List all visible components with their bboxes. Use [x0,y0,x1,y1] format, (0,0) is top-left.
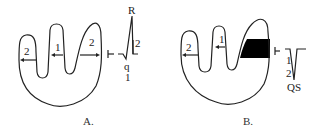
panel-b: 2 1 1 2 QS B. [181,19,306,127]
chamber-label-left-a: 2 [24,45,30,57]
infarct-region [240,39,270,58]
ecg-upper-label: 1 [286,54,292,66]
ecg-qs-label: QS [287,81,301,93]
chamber-label-middle-b: 1 [219,33,225,45]
ecg-peak-label: R [128,4,136,16]
arrowhead-icon [51,53,55,57]
ecg-q-amplitude-label: 1 [125,71,131,83]
arrowhead-icon [182,53,186,57]
panel-caption-b: B. [243,115,253,127]
panel-caption-a: A. [83,115,94,127]
chamber-label-left-b: 2 [186,41,192,53]
ecg-amplitude-label: 2 [135,37,141,49]
panel-a: 2 1 2 R 2 q 1 A. [19,4,141,127]
diagram-canvas: 2 1 2 R 2 q 1 A. 2 1 1 2 QS B. [0,0,319,132]
chamber-label-middle-a: 1 [55,41,61,53]
arrowhead-icon [215,45,219,49]
arrowhead-icon [96,53,100,57]
ecg-lower-label: 2 [286,67,292,79]
chamber-label-right-a: 2 [89,36,95,48]
arrowhead-icon [20,58,24,62]
heart-outline-b [181,19,269,104]
